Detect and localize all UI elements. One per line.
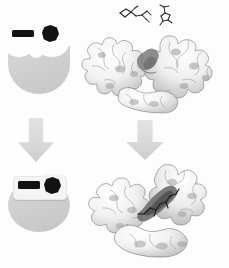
protein-lobe-bottom	[114, 225, 187, 257]
ligand-stick-model-1-icon	[120, 6, 151, 22]
transition-arrow-left-icon	[18, 118, 54, 162]
figure-root	[0, 0, 229, 268]
protein-lobe-left	[82, 38, 147, 96]
schematic-open-enzyme	[8, 24, 74, 94]
protein-surface-closed	[86, 156, 226, 264]
ligand-bar-unbound	[12, 30, 34, 37]
transition-arrow-right-icon	[126, 120, 164, 160]
ligand-bar-bound	[18, 181, 40, 189]
protein-lobe-left-lower	[89, 178, 151, 233]
arrow-down-icon	[126, 120, 164, 160]
schematic-closed-enzyme	[8, 172, 74, 238]
enzyme-pocket-ridge	[29, 44, 43, 58]
arrow-down-icon	[18, 118, 54, 162]
ligand-polygon-unbound	[42, 25, 59, 42]
protein-lobe-right	[145, 36, 212, 98]
protein-surface-open	[74, 22, 226, 118]
